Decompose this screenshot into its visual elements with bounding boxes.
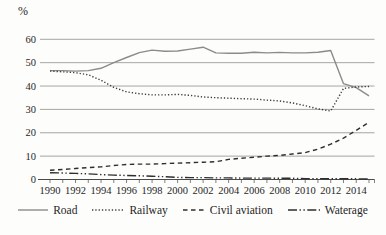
legend-dash-dot-dot-line-sample-icon [288, 205, 320, 215]
y-tick-label-40: 40 [26, 81, 37, 92]
series-line-waterage [50, 173, 369, 179]
legend-label-waterage: Waterage [325, 204, 368, 216]
legend-label-railway: Railway [129, 204, 167, 216]
y-tick-label-60: 60 [26, 34, 37, 45]
plot-area: 0102030405060199019921994199619982000200… [0, 0, 386, 235]
x-tick-label-1998: 1998 [142, 185, 163, 196]
legend-label-civil-aviation: Civil aviation [210, 204, 273, 216]
x-tick-label-2010: 2010 [295, 185, 316, 196]
x-tick-label-2014: 2014 [346, 185, 368, 196]
x-tick-label-2004: 2004 [218, 185, 240, 196]
series-line-road [50, 47, 369, 96]
legend-item-waterage: Waterage [288, 204, 368, 216]
series-line-civil-aviation [50, 122, 369, 170]
legend-dotted-line-sample-icon [92, 205, 124, 215]
x-tick-label-2002: 2002 [193, 185, 214, 196]
legend-solid-line-sample-icon [18, 205, 48, 215]
x-tick-label-2008: 2008 [269, 185, 290, 196]
x-tick-label-1996: 1996 [116, 185, 137, 196]
y-tick-label-0: 0 [31, 174, 36, 185]
x-tick-label-1992: 1992 [65, 185, 86, 196]
y-tick-label-20: 20 [26, 127, 37, 138]
legend-item-railway: Railway [92, 204, 167, 216]
series-line-railway [50, 71, 369, 111]
x-tick-label-2006: 2006 [244, 185, 265, 196]
y-tick-label-50: 50 [26, 57, 37, 68]
legend-item-road: Road [18, 204, 77, 216]
legend-item-civil-aviation: Civil aviation [183, 204, 273, 216]
x-tick-label-1990: 1990 [40, 185, 61, 196]
chart-figure: % 01020304050601990199219941996199820002… [0, 0, 386, 235]
y-tick-label-10: 10 [26, 151, 37, 162]
legend: RoadRailwayCivil aviationWaterage [0, 204, 386, 216]
y-tick-label-30: 30 [26, 104, 37, 115]
x-tick-label-2012: 2012 [320, 185, 341, 196]
x-tick-label-2000: 2000 [167, 185, 188, 196]
legend-label-road: Road [53, 204, 77, 216]
legend-dashed-line-sample-icon [183, 205, 205, 215]
x-tick-label-1994: 1994 [91, 185, 113, 196]
